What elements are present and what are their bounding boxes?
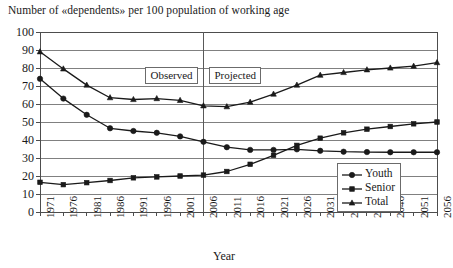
- x-tick-label: 1981: [92, 196, 103, 218]
- x-tick-label: 2026: [302, 196, 313, 218]
- x-tick-label: 1996: [162, 196, 173, 218]
- legend-item-youth: Youth: [341, 166, 395, 180]
- x-tick-label: 2016: [255, 196, 266, 218]
- x-tick-label: 2006: [208, 196, 219, 218]
- x-tick-label: 1976: [68, 196, 79, 218]
- x-tick-label: 2011: [232, 196, 243, 218]
- y-tick-label: 70: [4, 80, 34, 92]
- y-tick-label: 80: [4, 62, 34, 74]
- legend-item-total: Total: [341, 194, 395, 208]
- phase-label-observed: Observed: [145, 67, 197, 84]
- y-tick-label: 50: [4, 116, 34, 128]
- x-tick-label: 1986: [115, 196, 126, 218]
- y-tick-label: 0: [4, 206, 34, 218]
- phase-label-projected: Projected: [209, 67, 261, 84]
- y-tick-label: 30: [4, 152, 34, 164]
- y-tick-label: 40: [4, 134, 34, 146]
- legend-label: Total: [365, 195, 388, 207]
- y-tick-label: 10: [4, 188, 34, 200]
- legend-label: Senior: [365, 181, 395, 193]
- x-tick-label: 2021: [279, 196, 290, 218]
- series-youth: [37, 76, 439, 155]
- square-marker-icon: [341, 181, 363, 193]
- x-tick-label: 2051: [419, 196, 430, 218]
- x-tick-label: 2056: [442, 196, 453, 218]
- y-tick-label: 20: [4, 170, 34, 182]
- x-tick-label: 1991: [138, 196, 149, 218]
- x-axis-title: Year: [0, 250, 448, 263]
- y-tick-label: 90: [4, 44, 34, 56]
- legend-label: Youth: [365, 167, 393, 179]
- x-tick-label: 2031: [325, 196, 336, 218]
- legend-item-senior: Senior: [341, 180, 395, 194]
- y-tick-label: 100: [4, 26, 34, 38]
- y-tick-label: 60: [4, 98, 34, 110]
- x-tick-label: 2001: [185, 196, 196, 218]
- x-tick-label: 1971: [45, 196, 56, 218]
- circle-marker-icon: [341, 167, 363, 179]
- chart-legend: YouthSeniorTotal: [337, 163, 401, 212]
- triangle-marker-icon: [341, 195, 363, 207]
